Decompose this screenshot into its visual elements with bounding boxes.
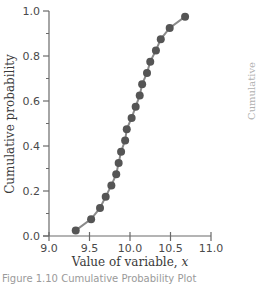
data-point [136, 91, 144, 99]
data-point [112, 170, 120, 178]
data-point [143, 69, 151, 77]
data-line [76, 17, 185, 231]
y-tick-label: 0.2 [23, 185, 41, 198]
y-tick-label: 0.0 [23, 230, 41, 243]
data-point [152, 46, 160, 54]
data-point [146, 58, 154, 66]
x-tick-label: 10.0 [118, 242, 143, 255]
data-point [96, 204, 104, 212]
data-point [181, 13, 189, 21]
x-tick-label: 9.5 [81, 242, 99, 255]
y-axis-title: Cumulative probability [3, 54, 17, 194]
adjacent-chart-label-cropped: Cumulative probability [246, 40, 256, 120]
data-point [107, 181, 115, 189]
data-point [102, 193, 110, 201]
y-tick-label: 1.0 [23, 5, 41, 18]
y-tick-label: 0.4 [23, 140, 41, 153]
y-axis: 0.00.20.40.60.81.0 [23, 5, 50, 243]
x-tick-label: 11.0 [199, 242, 224, 255]
data-point [115, 159, 123, 167]
x-tick-label: 9.0 [40, 242, 58, 255]
data-points [72, 13, 189, 235]
data-point [87, 215, 95, 223]
x-axis: 9.09.510.010.511.0 [40, 232, 223, 255]
data-point [128, 114, 136, 122]
y-tick-label: 0.6 [23, 95, 41, 108]
data-point [157, 35, 165, 43]
y-tick-label: 0.8 [23, 50, 41, 63]
data-point [166, 24, 174, 32]
data-point [138, 80, 146, 88]
data-point [132, 103, 140, 111]
x-axis-title: Value of variable, x [71, 255, 189, 269]
data-point [72, 226, 80, 234]
x-tick-label: 10.5 [158, 242, 183, 255]
data-point [123, 125, 131, 133]
data-point [121, 136, 129, 144]
data-point [117, 148, 125, 156]
figure-caption: Figure 1.10 Cumulative Probability Plot [2, 273, 196, 284]
